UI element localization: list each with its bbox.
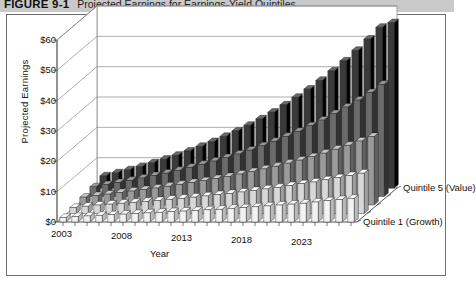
y-tick-label: $20 xyxy=(40,155,56,166)
z-axis-label: Quintile 5 (Value) xyxy=(403,182,476,193)
y-tick-label: $60 xyxy=(40,34,56,45)
y-axis-title: Projected Earnings xyxy=(19,42,30,162)
y-tick-label: $30 xyxy=(40,125,56,136)
x-tick-label: 2003 xyxy=(51,228,72,239)
x-tick-label: 2018 xyxy=(231,234,252,245)
y-tick-label: $50 xyxy=(40,64,56,75)
x-tick-label: 2013 xyxy=(171,232,192,243)
x-tick-label: 2023 xyxy=(291,236,312,247)
x-axis-title: Year xyxy=(150,248,169,259)
z-axis-label: Quintile 1 (Growth) xyxy=(363,216,443,227)
y-tick-label: $40 xyxy=(40,95,56,106)
y-tick-label: $0 xyxy=(45,216,56,227)
x-tick-label: 2008 xyxy=(111,230,132,241)
y-tick-label: $10 xyxy=(40,186,56,197)
